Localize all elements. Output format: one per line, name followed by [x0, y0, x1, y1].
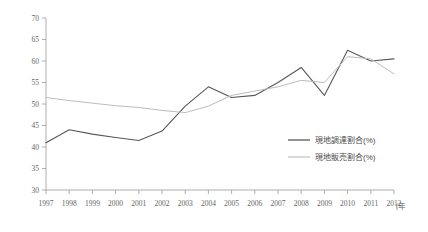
series-group [46, 50, 394, 142]
x-axis: 1997199819992000200120022003200420052006… [39, 190, 407, 211]
y-tick-label: 30 [32, 186, 40, 195]
x-tick-label: 2010 [340, 199, 355, 208]
y-tick-label: 35 [32, 164, 40, 173]
x-tick-label: 1997 [39, 199, 54, 208]
chart-legend: 現地調達割合(%)現地販売割合(%) [288, 135, 376, 162]
x-tick-label: 2009 [317, 199, 332, 208]
x-tick-label: 1999 [85, 199, 100, 208]
x-tick-label: 2004 [201, 199, 216, 208]
legend-label-2: 現地販売割合(%) [315, 152, 376, 162]
x-tick-label: 2007 [271, 199, 286, 208]
y-tick-label: 40 [32, 143, 40, 152]
x-tick-label: 2003 [178, 199, 193, 208]
x-tick-group: 1997199819992000200120022003200420052006… [39, 190, 402, 208]
x-tick-label: 2002 [155, 199, 170, 208]
y-tick-label: 45 [32, 121, 40, 130]
series-line-1 [46, 50, 394, 142]
x-axis-unit-label: (年 [396, 201, 406, 211]
y-tick-group: 303540455055606570 [32, 14, 47, 195]
x-tick-label: 2006 [247, 199, 262, 208]
y-tick-label: 60 [32, 57, 40, 66]
line-chart: 303540455055606570 199719981999200020012… [0, 0, 428, 232]
y-tick-label: 65 [32, 35, 40, 44]
x-tick-label: 2011 [363, 199, 378, 208]
x-tick-label: 2008 [294, 199, 309, 208]
series-line-2 [46, 57, 394, 113]
chart-container: 303540455055606570 199719981999200020012… [0, 0, 428, 232]
x-tick-label: 1998 [62, 199, 77, 208]
legend-label-1: 現地調達割合(%) [315, 135, 376, 145]
y-tick-label: 70 [32, 14, 40, 23]
x-tick-label: 2001 [131, 199, 146, 208]
y-tick-label: 50 [32, 100, 40, 109]
x-tick-label: 2005 [224, 199, 239, 208]
y-axis: 303540455055606570 [32, 14, 47, 195]
y-tick-label: 55 [32, 78, 40, 87]
x-tick-label: 2000 [108, 199, 123, 208]
